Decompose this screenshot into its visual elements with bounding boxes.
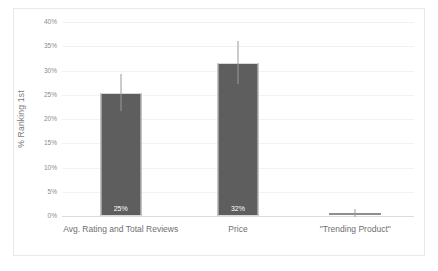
bar-price[interactable]: 32% <box>217 63 258 216</box>
y-tick-label-10: 10% <box>44 164 57 171</box>
bar-avg-rating-and-total-reviews[interactable]: 25% <box>100 93 141 216</box>
x-tick-label-1: Price <box>178 223 298 235</box>
error-bar-1 <box>237 41 238 84</box>
bar-chart: % Ranking 1st 40% 35% 30% 25% 20% 15% 10… <box>0 0 438 271</box>
y-tick-label-20: 20% <box>44 116 57 123</box>
bar-group-2: "Trending Product" <box>297 22 414 216</box>
error-bar-0 <box>120 74 121 111</box>
bar-value-label-1: 32% <box>231 205 245 212</box>
x-tick-label-2: "Trending Product" <box>295 223 415 235</box>
gridline-0-baseline: 0% <box>62 216 414 217</box>
y-tick-label-15: 15% <box>44 140 57 147</box>
x-tick-label-0: Avg. Rating and Total Reviews <box>61 223 181 235</box>
bar-value-label-0: 25% <box>114 205 128 212</box>
y-tick-label-0: 0% <box>48 213 57 220</box>
y-axis-title: % Ranking 1st <box>16 90 26 147</box>
y-tick-label-30: 30% <box>44 67 57 74</box>
y-tick-label-25: 25% <box>44 92 57 99</box>
bar-group-0: 25% Avg. Rating and Total Reviews <box>62 22 179 216</box>
plot-area: 40% 35% 30% 25% 20% 15% 10% 5% 0% 25% <box>62 22 414 216</box>
error-bar-2 <box>355 209 356 217</box>
bar-group-1: 32% Price <box>179 22 296 216</box>
y-tick-label-40: 40% <box>44 19 57 26</box>
y-tick-label-35: 35% <box>44 43 57 50</box>
y-tick-label-5: 5% <box>48 189 57 196</box>
